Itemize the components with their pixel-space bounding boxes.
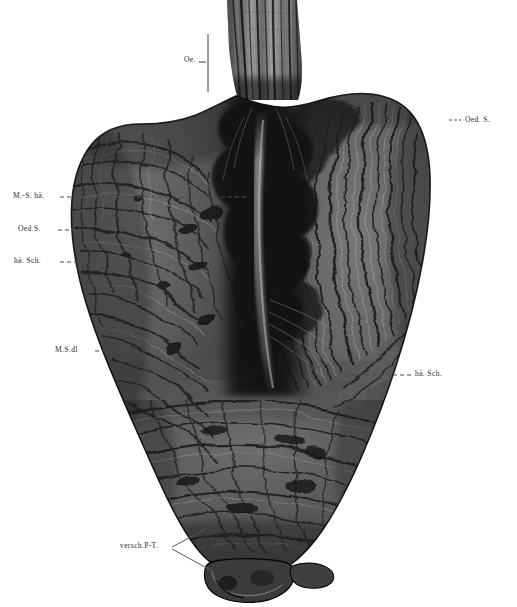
annotation-hae-sch-left: hä. Sch.	[14, 257, 41, 265]
annotation-oed-s-right: Oed. S.	[465, 116, 490, 124]
anatomical-plate: Oe. Oed. S. M.-S. hä. Oed.S. hä. Sch. M.…	[0, 0, 517, 607]
annotation-oed-s-left: Oed.S.	[18, 225, 41, 233]
annotation-versch-pt: versch.P-T.	[120, 542, 158, 550]
specimen-figure	[0, 0, 517, 607]
specimen-illustration	[0, 0, 517, 607]
annotation-hae-sch-right: hä. Sch.	[415, 370, 442, 378]
annotation-oe: Oe.	[184, 56, 196, 64]
annotation-ms-dl: M.S.dl	[55, 346, 78, 354]
annotation-ms-hae: M.-S. hä.	[13, 192, 44, 200]
